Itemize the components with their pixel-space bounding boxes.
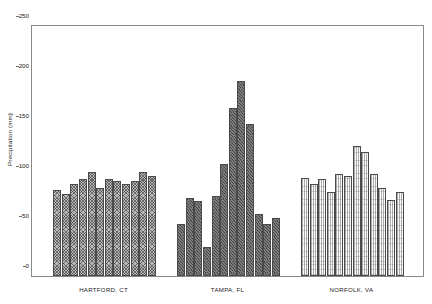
bar[interactable] <box>370 174 378 276</box>
bar[interactable] <box>88 172 96 276</box>
bar[interactable] <box>301 178 309 276</box>
group-label: NORFOLK, VA <box>329 286 373 293</box>
bar[interactable] <box>177 224 185 276</box>
bar[interactable] <box>353 146 361 276</box>
bar[interactable] <box>148 176 156 276</box>
bar[interactable] <box>272 218 280 276</box>
y-axis-tick-mark <box>23 266 26 267</box>
bar[interactable] <box>53 190 61 276</box>
bar-group-hartford-ct <box>53 26 156 276</box>
bar[interactable] <box>344 176 352 276</box>
y-axis-tick: 0 <box>26 261 32 271</box>
bar[interactable] <box>79 179 87 276</box>
bar[interactable] <box>203 247 211 276</box>
bar[interactable] <box>361 152 369 276</box>
y-axis-tick-mark <box>16 66 19 67</box>
y-axis-tick-label: 200 <box>19 61 32 71</box>
bar-group-norfolk-va <box>301 26 404 276</box>
y-axis-tick-label: 250 <box>19 11 32 21</box>
bar[interactable] <box>237 81 245 276</box>
y-axis-title: Precipitation (mm) <box>0 0 18 278</box>
y-axis-tick: 100 <box>19 161 32 171</box>
group-label: HARTFORD, CT <box>79 286 128 293</box>
bar[interactable] <box>263 224 271 276</box>
y-axis-tick-mark <box>16 166 19 167</box>
plot-area: 050100150200250 <box>31 25 424 277</box>
y-axis-tick-label: 0 <box>26 261 32 271</box>
y-axis-tick-mark <box>16 16 19 17</box>
y-axis-tick-label: 50 <box>22 211 32 221</box>
y-axis-title-label: Precipitation (mm) <box>6 113 13 166</box>
bar[interactable] <box>229 108 237 276</box>
bar[interactable] <box>220 164 228 276</box>
y-axis-tick-mark <box>19 216 22 217</box>
y-axis-tick: 250 <box>19 11 32 21</box>
bar[interactable] <box>212 196 220 276</box>
bar[interactable] <box>194 201 202 276</box>
y-axis-tick: 200 <box>19 61 32 71</box>
bar[interactable] <box>378 188 386 276</box>
bar[interactable] <box>396 192 404 276</box>
bar[interactable] <box>62 194 70 276</box>
y-axis-tick-label: 150 <box>19 111 32 121</box>
bar[interactable] <box>255 214 263 276</box>
bar[interactable] <box>113 181 121 276</box>
bar[interactable] <box>318 179 326 276</box>
bar[interactable] <box>131 181 139 276</box>
precipitation-bar-chart: Precipitation (mm) 050100150200250 HARTF… <box>0 0 432 304</box>
bar[interactable] <box>70 184 78 276</box>
bar[interactable] <box>105 179 113 276</box>
bar[interactable] <box>310 184 318 276</box>
bar[interactable] <box>327 192 335 276</box>
bar[interactable] <box>139 172 147 276</box>
bar[interactable] <box>186 198 194 276</box>
bar[interactable] <box>246 124 254 276</box>
bar[interactable] <box>96 188 104 276</box>
bar[interactable] <box>335 174 343 276</box>
y-axis-tick-label: 100 <box>19 161 32 171</box>
bar-group-tampa-fl <box>177 26 280 276</box>
group-label: TAMPA, FL <box>211 286 244 293</box>
y-axis-tick-mark <box>16 116 19 117</box>
bar[interactable] <box>387 200 395 276</box>
y-axis-tick: 50 <box>22 211 32 221</box>
plot-inner: 050100150200250 <box>32 26 423 276</box>
y-axis-tick: 150 <box>19 111 32 121</box>
bar[interactable] <box>122 184 130 276</box>
